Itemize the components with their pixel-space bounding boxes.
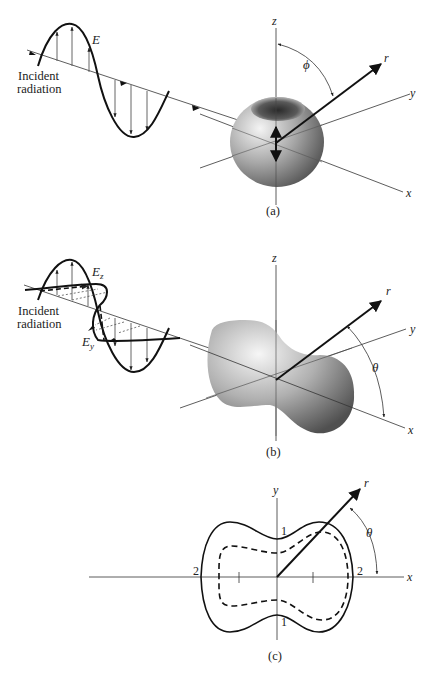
caption-a: (a) xyxy=(266,204,280,218)
theta-label: θ xyxy=(366,525,373,540)
x-axis-label: x xyxy=(407,423,414,437)
incident-label-line2: radiation xyxy=(17,317,62,331)
y-axis-label: y xyxy=(409,322,416,336)
incident-label-line1: Incident xyxy=(18,304,59,318)
incident-label-line1: Incident xyxy=(18,69,59,83)
r-label: r xyxy=(384,51,389,65)
caption-b: (b) xyxy=(266,445,281,459)
e-field-label: E xyxy=(91,32,100,47)
tick-label-y-top: 1 xyxy=(281,524,287,538)
caption-c: (c) xyxy=(268,649,282,663)
tick-label-y-bottom: 1 xyxy=(281,615,287,629)
ey-construction-lines xyxy=(58,289,108,300)
tick-label-x-right: 2 xyxy=(357,564,363,578)
tick-label-x-left: 2 xyxy=(193,564,199,578)
z-axis-label: z xyxy=(271,14,277,28)
incident-label-line2: radiation xyxy=(17,82,62,96)
x-axis-label: x xyxy=(405,186,412,200)
x-axis-label: x xyxy=(406,570,413,584)
ez-label: Ez xyxy=(91,264,104,281)
scattering-diagram: E Incident radiation z r y x ϕ (a) xyxy=(0,0,436,675)
theta-label: θ xyxy=(372,360,379,375)
propagation-axis xyxy=(27,50,262,128)
r-label: r xyxy=(364,476,369,490)
panel-c: y r x θ 2 2 1 1 (c) xyxy=(89,476,413,663)
dashed-intensity-curve xyxy=(219,532,348,620)
ey-label: Ey xyxy=(81,334,94,351)
theta-angle-arc xyxy=(350,508,377,574)
z-axis-label: z xyxy=(271,251,277,265)
torus-hole xyxy=(251,97,305,121)
phi-label: ϕ xyxy=(303,57,310,72)
y-axis-label: y xyxy=(409,86,416,100)
r-label: r xyxy=(386,284,391,298)
y-axis-label: y xyxy=(272,483,279,497)
panel-a: E Incident radiation z r y x ϕ (a) xyxy=(17,14,416,218)
panel-b: Ez Ey Incident radiation z r y x θ (b) xyxy=(17,251,416,459)
